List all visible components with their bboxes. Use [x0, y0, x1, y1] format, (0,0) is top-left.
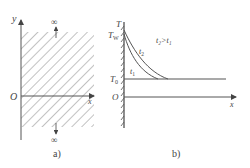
- caption-a: a): [53, 148, 61, 160]
- panel-b: T TW T0 O x t1 t2 t₂>t₁ b): [108, 19, 236, 160]
- diagram-canvas: y x O ∞ ∞ a) T TW T0 O x t1 t2 t₂: [0, 0, 250, 168]
- panel-a: y x O ∞ ∞ a): [10, 13, 94, 160]
- caption-b: b): [172, 148, 180, 160]
- semi-infinite-body-hatch: [21, 32, 94, 127]
- origin-label-b: O: [112, 92, 119, 102]
- initial-temp-label: T0: [110, 74, 118, 85]
- x-axis-label-b: x: [229, 100, 234, 109]
- top-infinity-symbol: ∞: [51, 17, 57, 27]
- origin-label: O: [10, 91, 17, 102]
- curve-t2-label: t2: [139, 47, 144, 57]
- bottom-infinity-symbol: ∞: [51, 135, 57, 145]
- curve-t1-label: t1: [130, 67, 135, 77]
- relation-label: t₂>t₁: [156, 36, 172, 45]
- wall-hatch: [121, 22, 124, 128]
- wall-temp-label: TW: [108, 30, 119, 41]
- x-axis-label: x: [87, 97, 92, 106]
- y-axis-label-T: T: [116, 19, 122, 29]
- y-axis-label: y: [11, 13, 17, 24]
